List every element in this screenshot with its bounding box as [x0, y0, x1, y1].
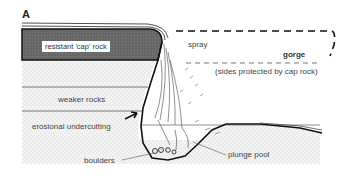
spray-marks — [180, 68, 220, 134]
falling-water — [155, 44, 188, 150]
waterfall-diagram — [0, 0, 345, 189]
undercutting-label: erosional undercutting — [32, 123, 111, 131]
spray-label: spray — [188, 41, 208, 49]
panel-label: A — [22, 8, 30, 20]
cap-rock-label: resistant 'cap' rock — [42, 41, 110, 52]
weaker-rocks-label: weaker rocks — [58, 96, 105, 104]
boulders-label: boulders — [84, 157, 115, 165]
plunge-pool-label: plunge pool — [228, 151, 269, 159]
bedrock-stipple — [22, 140, 320, 164]
gorge-label: gorge — [283, 51, 305, 59]
gorge-note-label: (sides protected by cap rock) — [215, 68, 318, 76]
